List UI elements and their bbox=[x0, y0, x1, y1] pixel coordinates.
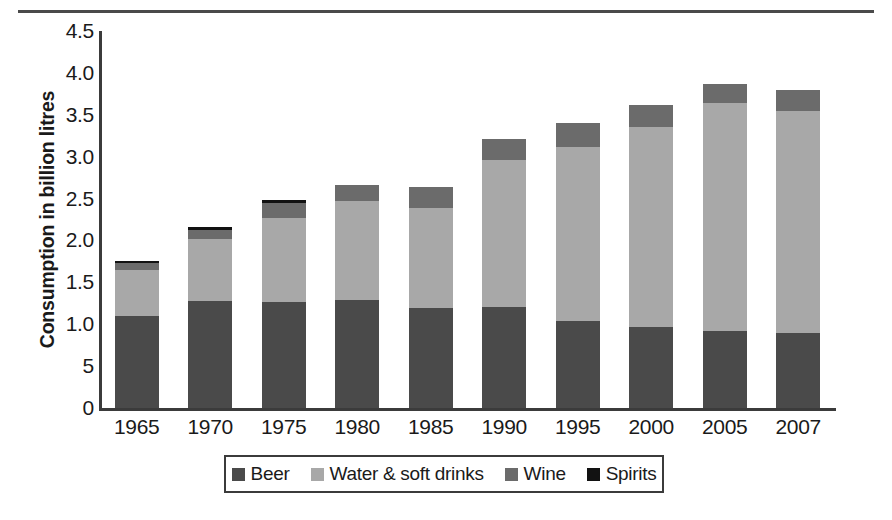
bar-segment bbox=[262, 218, 306, 302]
top-horizontal-rule bbox=[18, 10, 874, 13]
y-tick-label: 2.0 bbox=[42, 228, 94, 252]
x-tick-label: 1980 bbox=[334, 415, 380, 439]
bar-segment bbox=[335, 185, 379, 201]
bar-segment bbox=[482, 160, 526, 307]
bar-stack bbox=[776, 90, 820, 408]
legend-swatch-icon bbox=[311, 468, 324, 481]
bar-segment bbox=[629, 105, 673, 128]
bar-stack bbox=[556, 123, 600, 408]
bar-stack bbox=[262, 200, 306, 408]
bar-stack bbox=[482, 139, 526, 408]
bar-segment bbox=[556, 147, 600, 320]
x-tick-label: 2000 bbox=[628, 415, 674, 439]
bar-segment bbox=[409, 208, 453, 309]
bar-stack bbox=[188, 227, 232, 408]
legend-label: Wine bbox=[524, 463, 566, 485]
bar-segment bbox=[629, 327, 673, 408]
bar-segment bbox=[703, 84, 747, 103]
bar-segment bbox=[262, 302, 306, 408]
bar-group bbox=[115, 31, 159, 408]
bar-segment bbox=[482, 139, 526, 160]
bar-segment bbox=[482, 307, 526, 408]
bar-segment bbox=[629, 127, 673, 326]
bar-segment bbox=[556, 123, 600, 147]
bar-stack bbox=[115, 261, 159, 408]
y-tick-label: 1.0 bbox=[42, 312, 94, 336]
bar-stack bbox=[703, 84, 747, 408]
bar-group bbox=[262, 31, 306, 408]
legend-item: Beer bbox=[232, 463, 290, 485]
bar-segment bbox=[262, 203, 306, 218]
y-tick-label: 4.5 bbox=[42, 19, 94, 43]
bar-group bbox=[409, 31, 453, 408]
x-tick-label: 1990 bbox=[481, 415, 527, 439]
legend-swatch-icon bbox=[505, 468, 518, 481]
x-tick-label: 1985 bbox=[408, 415, 454, 439]
bar-segment bbox=[409, 187, 453, 208]
legend-label: Water & soft drinks bbox=[330, 463, 484, 485]
legend-swatch-icon bbox=[587, 468, 600, 481]
bar-segment bbox=[556, 321, 600, 408]
bar-group bbox=[556, 31, 600, 408]
bar-group bbox=[482, 31, 526, 408]
x-axis-tick-labels: 1965197019751980198519901995200020052007 bbox=[100, 415, 835, 449]
x-tick-label: 1975 bbox=[261, 415, 307, 439]
x-axis-line bbox=[99, 408, 836, 411]
x-tick-label: 1995 bbox=[555, 415, 601, 439]
legend-item: Water & soft drinks bbox=[311, 463, 484, 485]
y-tick-label: 4.0 bbox=[42, 61, 94, 85]
bar-segment bbox=[335, 300, 379, 408]
bar-segment bbox=[409, 308, 453, 408]
bar-stack bbox=[409, 187, 453, 408]
bar-group bbox=[188, 31, 232, 408]
bar-group bbox=[629, 31, 673, 408]
y-tick-label: 1.5 bbox=[42, 270, 94, 294]
stacked-bar-chart-figure: Consumption in billion litres 4.54.03.53… bbox=[0, 0, 892, 520]
bar-stack bbox=[335, 185, 379, 408]
y-tick-label: 0 bbox=[42, 396, 94, 420]
bar-group bbox=[776, 31, 820, 408]
legend-swatch-icon bbox=[232, 468, 245, 481]
y-tick-label: 3.5 bbox=[42, 103, 94, 127]
bar-segment bbox=[776, 111, 820, 333]
y-tick-label: 2.5 bbox=[42, 187, 94, 211]
x-tick-label: 2007 bbox=[775, 415, 821, 439]
plot-area bbox=[100, 31, 835, 408]
bar-group bbox=[703, 31, 747, 408]
y-tick-label: 5 bbox=[42, 354, 94, 378]
bar-segment bbox=[776, 90, 820, 112]
bar-segment bbox=[115, 270, 159, 316]
y-axis-tick-labels: 4.54.03.53.02.52.01.51.050 bbox=[38, 0, 94, 520]
bar-segment bbox=[335, 201, 379, 300]
bar-segment bbox=[703, 103, 747, 331]
x-tick-label: 2005 bbox=[702, 415, 748, 439]
x-tick-label: 1965 bbox=[114, 415, 160, 439]
legend-item: Wine bbox=[505, 463, 566, 485]
bar-segment bbox=[188, 239, 232, 301]
bar-group bbox=[335, 31, 379, 408]
bar-segment bbox=[703, 331, 747, 408]
legend-label: Spirits bbox=[606, 463, 657, 485]
bar-segment bbox=[188, 230, 232, 239]
legend-label: Beer bbox=[251, 463, 290, 485]
x-tick-label: 1970 bbox=[187, 415, 233, 439]
legend-item: Spirits bbox=[587, 463, 657, 485]
bar-segment bbox=[188, 301, 232, 408]
y-tick-label: 3.0 bbox=[42, 145, 94, 169]
chart-legend: BeerWater & soft drinksWineSpirits bbox=[224, 455, 664, 493]
bar-segment bbox=[776, 333, 820, 408]
bar-segment bbox=[115, 263, 159, 270]
bar-stack bbox=[629, 105, 673, 408]
bar-segment bbox=[115, 316, 159, 408]
